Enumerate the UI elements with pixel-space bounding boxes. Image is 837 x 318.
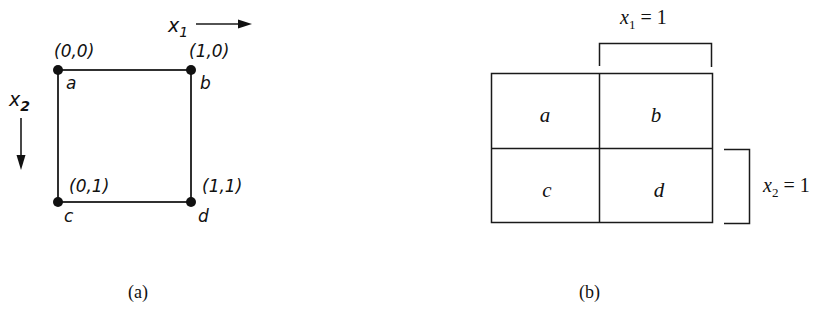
- vertex-name-b: b: [200, 73, 211, 93]
- vertex-coord-d: (1,1): [202, 176, 242, 196]
- x1-axis-label: x1: [167, 14, 188, 40]
- vertex-dot-a: [53, 65, 63, 75]
- x1-arrow-icon: [196, 20, 252, 29]
- diagram-a: x1 x2 (0,0) (1,0) (0,1) (1,1) a b c d (a…: [8, 14, 252, 303]
- vertex-dot-c: [53, 197, 63, 207]
- x2-axis-label: x2: [8, 88, 30, 114]
- x2-bracket-label: x2 = 1: [762, 174, 810, 200]
- x1-bracket: [600, 44, 712, 68]
- kmap-cell-b: b: [651, 103, 662, 127]
- vertex-coord-a: (0,0): [54, 41, 94, 61]
- x2-bracket: [724, 150, 750, 224]
- vertex-coord-c: (0,1): [69, 176, 109, 196]
- vertex-name-c: c: [64, 206, 74, 226]
- x1-bracket-label: x1 = 1: [619, 6, 667, 32]
- x2-arrow-icon: [17, 118, 26, 170]
- vertex-coord-b: (1,0): [189, 41, 229, 61]
- vertex-dot-b: [186, 65, 196, 75]
- vertex-name-a: a: [66, 73, 76, 93]
- figure-canvas: x1 x2 (0,0) (1,0) (0,1) (1,1) a b c d (a…: [0, 0, 837, 318]
- vertex-name-d: d: [198, 206, 209, 226]
- kmap-cell-d: d: [654, 178, 665, 202]
- caption-b: (b): [579, 282, 600, 303]
- kmap-cell-a: a: [540, 103, 551, 127]
- diagram-b: a b c d x1 = 1 x2 = 1 (b): [491, 6, 810, 303]
- vertex-dot-d: [186, 197, 196, 207]
- kmap-cell-c: c: [542, 178, 552, 202]
- caption-a: (a): [128, 282, 148, 303]
